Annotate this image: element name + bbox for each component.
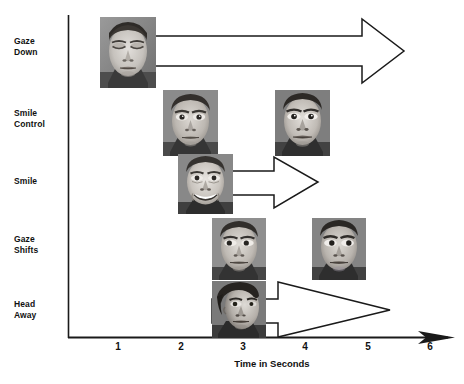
face-thumbnail-gaze-shifts-b — [312, 218, 366, 280]
x-tick-label-4: 4 — [295, 341, 315, 352]
face-thumbnail-gaze-shifts-a — [212, 218, 266, 280]
face-thumbnail-head-away — [212, 281, 266, 338]
x-tick-label-2: 2 — [171, 341, 191, 352]
row-label-head-away: Head Away — [14, 299, 66, 320]
x-tick-label-1: 1 — [108, 341, 128, 352]
x-tick-label-3: 3 — [233, 341, 253, 352]
timeline-arrow-gaze-down — [148, 16, 408, 86]
x-axis-title: Time in Seconds — [202, 358, 342, 369]
row-label-gaze-down: Gaze Down — [14, 36, 66, 57]
row-label-smile-control: Smile Control — [14, 108, 66, 129]
x-tick-label-5: 5 — [358, 341, 378, 352]
face-thumbnail-gaze-down — [100, 17, 156, 88]
row-label-gaze-shifts: Gaze Shifts — [14, 234, 66, 255]
face-thumbnail-smile-control-b — [275, 90, 330, 156]
x-tick-label-6: 6 — [420, 341, 440, 352]
row-label-smile: Smile — [14, 176, 66, 187]
behavior-timeline-figure: Gaze Down Smile Control Smile Gaze Shift… — [0, 0, 464, 384]
face-thumbnail-smile — [178, 154, 233, 214]
face-thumbnail-smile-control-a — [163, 90, 218, 156]
